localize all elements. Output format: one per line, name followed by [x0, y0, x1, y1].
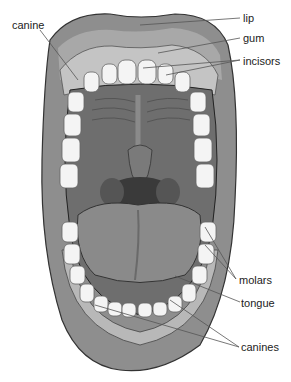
label-canine: canine: [12, 19, 44, 31]
label-gum: gum: [243, 32, 264, 44]
label-tongue: tongue: [241, 297, 275, 309]
label-molars: molars: [239, 274, 272, 286]
label-lip: lip: [243, 12, 254, 24]
label-incisors: incisors: [243, 55, 280, 67]
mouth-diagram: lip gum incisors canine molars tongue ca…: [0, 0, 291, 382]
label-canines: canines: [241, 341, 279, 353]
